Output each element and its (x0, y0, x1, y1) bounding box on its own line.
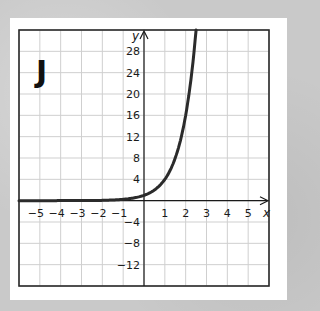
x-tick-label: 3 (203, 207, 210, 220)
graph-letter-label: J (34, 54, 47, 89)
y-tick-label: 8 (133, 152, 140, 165)
x-tick-label: −3 (69, 207, 85, 220)
x-axis-label: x (262, 206, 271, 220)
y-tick-label: −4 (124, 216, 140, 229)
graph: −5−4−3−2−112345282420161284−4−8−12xy J (0, 0, 293, 311)
x-tick-label: 2 (182, 207, 189, 220)
y-tick-label: 28 (126, 45, 140, 58)
y-tick-label: 12 (126, 131, 140, 144)
x-tick-label: 4 (224, 207, 231, 220)
x-tick-label: 1 (161, 207, 168, 220)
y-tick-label: 24 (126, 67, 140, 80)
tick-labels: −5−4−3−2−112345282420161284−4−8−12xy (28, 29, 271, 272)
y-axis-label: y (131, 29, 140, 43)
y-tick-label: 20 (126, 88, 140, 101)
y-tick-label: 4 (133, 173, 140, 186)
x-tick-label: −4 (49, 207, 65, 220)
x-tick-label: 5 (245, 207, 252, 220)
y-tick-label: −12 (117, 259, 140, 272)
y-tick-label: 16 (126, 109, 140, 122)
x-tick-label: −5 (28, 207, 44, 220)
y-tick-label: −8 (124, 237, 140, 250)
x-tick-label: −2 (90, 207, 106, 220)
